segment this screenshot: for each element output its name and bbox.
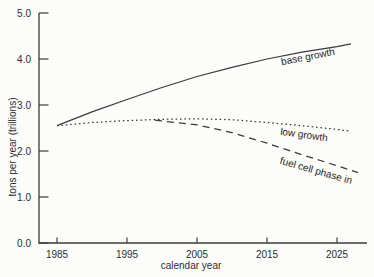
y-axis-title: tons per year (trillions)	[8, 98, 18, 197]
x-axis-tick-label: 2005	[186, 249, 209, 260]
x-axis-tick-label: 2025	[326, 249, 349, 260]
x-axis-tick-label: 1985	[46, 249, 69, 260]
y-axis-tick-label: 0.0	[17, 238, 31, 249]
x-axis-tick-label: 2015	[256, 249, 279, 260]
x-axis-title: calendar year	[161, 261, 222, 271]
y-axis-tick-label: 2.0	[17, 146, 31, 157]
y-axis-tick-label: 3.0	[17, 100, 31, 111]
y-axis-tick-label: 5.0	[17, 8, 31, 19]
chart-figure: 0.01.02.03.04.05.019851995200520152025 t…	[0, 0, 374, 277]
axis-lines	[39, 13, 367, 243]
y-axis-tick-label: 4.0	[17, 54, 31, 65]
y-axis-tick-label: 1.0	[17, 192, 31, 203]
x-axis-tick-label: 1995	[116, 249, 139, 260]
series-line-fuel-cell-phase-in	[155, 120, 358, 172]
